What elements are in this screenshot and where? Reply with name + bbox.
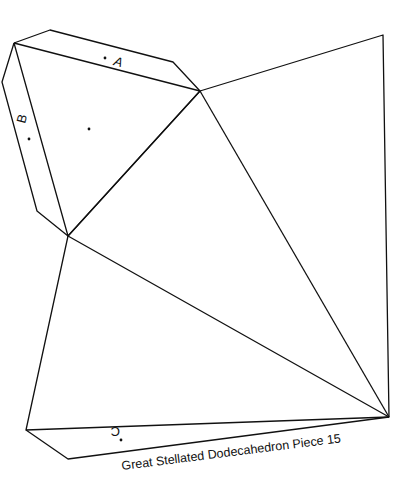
flap-label-c: C	[111, 424, 120, 439]
dot-a	[104, 57, 107, 60]
top-triangle	[14, 43, 200, 236]
flap-a	[14, 30, 200, 91]
flap-label-b: B	[13, 113, 30, 125]
net-diagram: A B C Great Stellated Dodecahedron Piece…	[0, 0, 405, 479]
dot-center	[88, 128, 91, 131]
center-edge	[200, 91, 389, 417]
dot-b	[28, 138, 31, 141]
bottom-triangle	[26, 236, 389, 430]
net-edges	[2, 30, 389, 459]
flap-label-a: A	[111, 53, 124, 70]
right-kite	[68, 35, 389, 417]
flap-b	[2, 43, 68, 236]
